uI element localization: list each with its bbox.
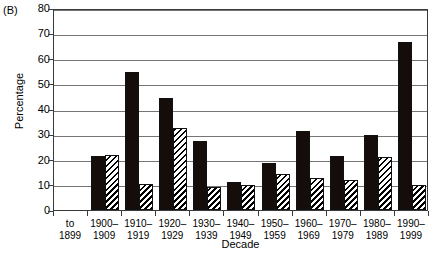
bar-solid[interactable]: [125, 72, 139, 210]
y-tick-label: 70: [4, 28, 50, 39]
bar-pair: [193, 10, 221, 210]
bar-hatched[interactable]: [276, 174, 290, 210]
bar-hatched[interactable]: [344, 180, 358, 210]
y-tick-label: 50: [4, 79, 50, 90]
x-tick-label-line: 1990–: [386, 218, 435, 230]
y-tick-label: 0: [4, 205, 50, 216]
bar-hatched[interactable]: [310, 178, 324, 210]
bar-pair: [262, 10, 290, 210]
x-tick-mark: [292, 211, 293, 216]
bar-hatched[interactable]: [207, 187, 221, 210]
y-tick-label: 10: [4, 180, 50, 191]
bar-solid[interactable]: [364, 135, 378, 210]
x-tick-mark: [428, 211, 429, 216]
y-tick-label: 40: [4, 104, 50, 115]
bar-group: [293, 10, 327, 210]
bar-group: [224, 10, 258, 210]
bar-pair: [398, 10, 426, 210]
y-tick-label: 30: [4, 129, 50, 140]
bar-solid[interactable]: [193, 141, 207, 210]
x-tick-mark: [360, 211, 361, 216]
bar-solid[interactable]: [398, 42, 412, 210]
x-tick-mark: [189, 211, 190, 216]
y-tick-label: 60: [4, 54, 50, 65]
bar-solid[interactable]: [296, 131, 310, 210]
bar-hatched[interactable]: [412, 185, 426, 210]
bar-hatched[interactable]: [139, 184, 153, 211]
bar-hatched[interactable]: [378, 157, 392, 210]
x-axis-title: Decade: [53, 238, 428, 250]
x-tick-mark: [326, 211, 327, 216]
bar-solid[interactable]: [159, 98, 173, 210]
x-tick-mark: [258, 211, 259, 216]
bar-pair: [364, 10, 392, 210]
x-tick-mark: [53, 211, 54, 216]
bar-group: [122, 10, 156, 210]
bar-hatched[interactable]: [105, 155, 119, 210]
bar-pair: [57, 10, 85, 210]
x-tick-mark: [87, 211, 88, 216]
bar-solid[interactable]: [262, 163, 276, 210]
bar-solid[interactable]: [330, 156, 344, 210]
chart-figure: (B) Percentage 01020304050607080 to18991…: [0, 0, 435, 255]
bar-pair: [227, 10, 255, 210]
bar-pair: [296, 10, 324, 210]
x-tick-mark: [155, 211, 156, 216]
bar-group: [88, 10, 122, 210]
bar-group: [259, 10, 293, 210]
plot-area: [53, 9, 428, 211]
bar-hatched[interactable]: [241, 185, 255, 210]
y-axis-ticks: 01020304050607080: [0, 0, 50, 255]
bar-group: [327, 10, 361, 210]
bar-group: [361, 10, 395, 210]
bar-pair: [159, 10, 187, 210]
bar-hatched[interactable]: [173, 128, 187, 210]
bar-series-container: [54, 10, 427, 210]
bar-group: [156, 10, 190, 210]
y-tick-label: 20: [4, 155, 50, 166]
bar-group: [395, 10, 429, 210]
x-tick-mark: [223, 211, 224, 216]
bar-pair: [125, 10, 153, 210]
bar-pair: [330, 10, 358, 210]
bar-solid[interactable]: [91, 156, 105, 210]
y-tick-label: 80: [4, 3, 50, 14]
bar-group: [190, 10, 224, 210]
bar-pair: [91, 10, 119, 210]
x-tick-mark: [121, 211, 122, 216]
bar-group: [54, 10, 88, 210]
x-tick-mark: [394, 211, 395, 216]
bar-solid[interactable]: [227, 182, 241, 210]
